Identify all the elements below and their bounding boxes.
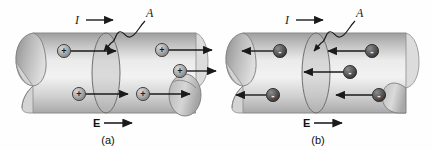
current-label-a: I — [74, 13, 113, 27]
panel-b: I A - - — [216, 0, 433, 150]
field-label-a: E — [93, 117, 132, 129]
caption-a: (a) — [101, 134, 114, 146]
carrier-b-5-sign: - — [377, 90, 380, 101]
carrier-a-3-sign: + — [177, 66, 182, 76]
carrier-b-2-sign: - — [370, 46, 373, 57]
carrier-a-4-sign: + — [76, 89, 81, 99]
panel-b-drawing: I A - - — [216, 0, 433, 150]
area-label-a-text: A — [145, 6, 154, 20]
carrier-a-1-sign: + — [61, 46, 66, 56]
carrier-b-3-sign: - — [348, 67, 351, 78]
panel-a: I A + + — [0, 0, 217, 150]
field-label-b-text: E — [303, 117, 310, 129]
area-label-b-text: A — [355, 6, 364, 20]
carrier-b-1-sign: - — [278, 46, 281, 57]
current-label-b: I — [284, 13, 323, 27]
field-label-a-text: E — [93, 117, 100, 129]
cross-section-a — [92, 33, 120, 113]
carrier-b-4-sign: - — [271, 90, 274, 101]
caption-b: (b) — [311, 134, 324, 146]
current-label-a-text: I — [74, 13, 80, 27]
cross-section-b — [302, 33, 330, 113]
figure-container: I A + + — [0, 0, 433, 150]
panel-a-drawing: I A + + — [0, 0, 217, 150]
carrier-a-2-sign: + — [159, 45, 164, 55]
current-label-b-text: I — [284, 13, 290, 27]
carrier-a-5-sign: + — [140, 89, 145, 99]
field-label-b: E — [303, 117, 342, 129]
